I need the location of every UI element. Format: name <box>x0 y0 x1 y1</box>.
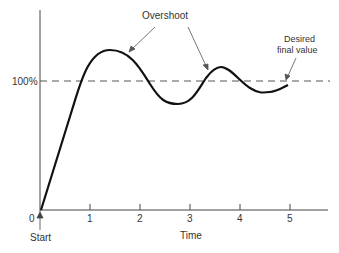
response-curve <box>41 50 288 210</box>
start-label: Start <box>30 232 51 243</box>
x-tick-2: 2 <box>137 213 143 224</box>
x-ticks <box>90 204 290 210</box>
y-tick-100: 100% <box>12 76 38 87</box>
x-axis-label: Time <box>180 230 202 241</box>
overshoot-label: Overshoot <box>142 10 188 21</box>
start-arrow <box>37 212 43 230</box>
desired-value-arrow <box>285 58 296 80</box>
desired-label-line2: final value <box>277 45 318 56</box>
x-tick-3: 3 <box>187 213 193 224</box>
desired-label-line1: Desired <box>284 34 315 45</box>
x-tick-5: 5 <box>287 213 293 224</box>
x-tick-4: 4 <box>237 213 243 224</box>
x-tick-1: 1 <box>87 213 93 224</box>
x-tick-0: 0 <box>29 213 35 224</box>
overshoot-arrows <box>129 27 208 70</box>
